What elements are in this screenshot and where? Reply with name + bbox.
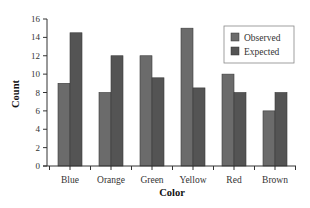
x-tick-label-blue: Blue — [61, 175, 79, 185]
bar-expected-green — [152, 78, 164, 166]
bar-expected-brown — [275, 93, 287, 167]
bar-expected-yellow — [193, 88, 205, 166]
x-axis-title: Color — [159, 187, 185, 198]
y-tick-label: 16 — [31, 14, 41, 24]
bar-expected-blue — [70, 33, 82, 166]
x-tick-label-orange: Orange — [97, 175, 125, 185]
bar-observed-orange — [99, 93, 111, 167]
x-tick-label-green: Green — [140, 175, 163, 185]
y-tick-label: 8 — [36, 88, 41, 98]
bar-observed-red — [222, 74, 234, 166]
y-axis: 0246810121416 — [31, 14, 47, 171]
x-tick-label-red: Red — [226, 175, 242, 185]
y-tick-label: 14 — [31, 32, 41, 42]
y-axis-title: Count — [10, 79, 21, 108]
bar-chart: 0246810121416 BlueOrangeGreenYellowRedBr… — [0, 0, 310, 208]
bar-expected-orange — [111, 56, 123, 166]
bar-observed-yellow — [181, 28, 193, 166]
y-tick-label: 10 — [31, 69, 41, 79]
legend-swatch-expected — [231, 47, 239, 55]
x-tick-label-yellow: Yellow — [179, 175, 206, 185]
y-tick-label: 6 — [36, 106, 41, 116]
bar-observed-green — [140, 56, 152, 166]
legend-label-expected: Expected — [244, 47, 280, 57]
legend: Observed Expected — [224, 26, 294, 63]
x-tick-label-brown: Brown — [262, 175, 288, 185]
bar-observed-blue — [58, 83, 70, 166]
bar-expected-red — [234, 93, 246, 167]
y-tick-label: 2 — [36, 143, 41, 153]
y-tick-label: 4 — [36, 124, 41, 134]
x-axis: BlueOrangeGreenYellowRedBrown — [43, 166, 296, 185]
y-tick-label: 0 — [36, 161, 41, 171]
legend-label-observed: Observed — [244, 33, 281, 43]
y-tick-label: 12 — [31, 51, 40, 61]
legend-swatch-observed — [231, 33, 239, 41]
bar-observed-brown — [263, 111, 275, 166]
